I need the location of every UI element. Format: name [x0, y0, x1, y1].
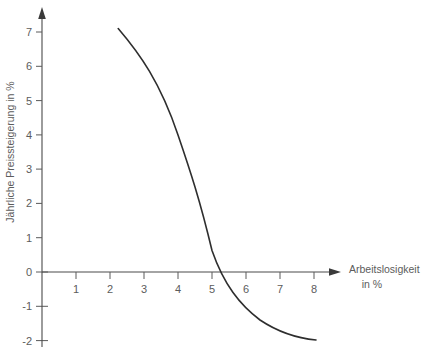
x-tick-label-6: 6	[243, 283, 249, 295]
x-tick-label-4: 4	[175, 283, 181, 295]
x-tick-label-8: 8	[311, 283, 317, 295]
y-tick-label-6: 6	[26, 60, 32, 72]
x-axis-arrow-icon	[329, 268, 341, 276]
x-axis-title-line1: Arbeitslosigkeit	[349, 263, 420, 275]
x-axis-title-line2: in %	[362, 278, 382, 290]
y-tick-label-0: 0	[26, 266, 32, 278]
y-tick-label-1: 1	[26, 232, 32, 244]
chart-canvas: 7 6 5 4 3 2 1 0 -1 -2 1 2 3 4	[0, 0, 429, 355]
phillips-curve-line	[118, 29, 316, 341]
x-axis-tick-labels: 1 2 3 4 5 6 7 8	[73, 283, 317, 295]
y-axis-tick-labels: 7 6 5 4 3 2 1 0 -1 -2	[22, 26, 32, 347]
phillips-curve-figure: 7 6 5 4 3 2 1 0 -1 -2 1 2 3 4	[0, 0, 429, 355]
x-tick-label-3: 3	[141, 283, 147, 295]
x-axis-ticks	[76, 272, 314, 279]
y-tick-label-2: 2	[26, 197, 32, 209]
x-tick-label-2: 2	[107, 283, 113, 295]
y-axis-arrow-icon	[38, 7, 46, 19]
y-axis-title: Jährliche Preissteigerung in %	[4, 81, 16, 222]
x-tick-label-1: 1	[73, 283, 79, 295]
x-tick-label-7: 7	[277, 283, 283, 295]
y-tick-label-5: 5	[26, 95, 32, 107]
y-tick-label-7: 7	[26, 26, 32, 38]
y-tick-label-minus-1: -1	[22, 300, 32, 312]
y-tick-label-3: 3	[26, 163, 32, 175]
x-tick-label-5: 5	[209, 283, 215, 295]
y-tick-label-4: 4	[26, 129, 32, 141]
y-tick-label-minus-2: -2	[22, 335, 32, 347]
